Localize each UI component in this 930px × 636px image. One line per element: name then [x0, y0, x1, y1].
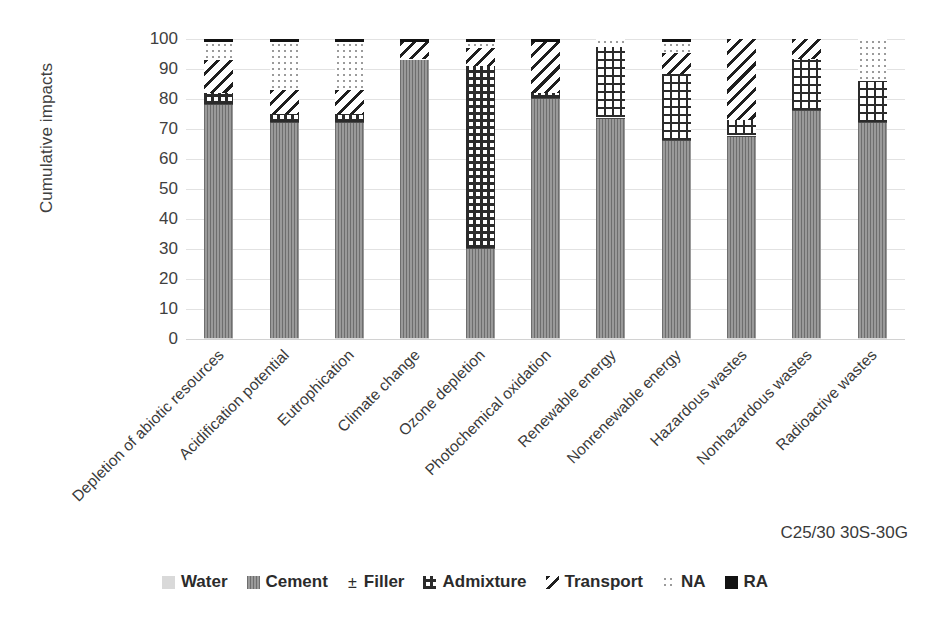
- segment-cement: [335, 123, 364, 338]
- segment-filler: [662, 140, 691, 142]
- segment-cement: [466, 249, 495, 338]
- legend-item-water[interactable]: Water: [162, 572, 228, 592]
- category-label-9: Nonhazardous wastes: [693, 346, 816, 469]
- segment-transport: [270, 90, 299, 114]
- segment-cement: [204, 105, 233, 338]
- segment-transport: [400, 42, 429, 59]
- segment-admixture: [466, 66, 495, 248]
- legend-label-transport: Transport: [565, 572, 643, 592]
- cement-swatch: [247, 576, 260, 589]
- bar-3[interactable]: [400, 39, 429, 339]
- segment-cement: [531, 99, 560, 338]
- segment-water: [792, 338, 821, 339]
- segment-transport: [335, 90, 364, 114]
- segment-water: [270, 338, 299, 339]
- segment-water: [531, 338, 560, 339]
- segment-admixture: [531, 93, 560, 98]
- segment-water: [335, 338, 364, 339]
- segment-water: [400, 338, 429, 339]
- y-tick-70: 70: [130, 119, 178, 139]
- gridline-0: [186, 339, 905, 340]
- segment-admixture: [596, 47, 625, 118]
- mix-annotation: C25/30 30S-30G: [780, 523, 908, 543]
- bar-6[interactable]: [596, 39, 625, 339]
- category-label-7: Nonrenewable energy: [564, 346, 685, 467]
- legend-item-na[interactable]: NA: [662, 572, 706, 592]
- segment-water: [466, 338, 495, 339]
- bar-0[interactable]: [204, 39, 233, 339]
- cropped-caption: [0, 626, 930, 636]
- segment-water: [596, 338, 625, 339]
- bar-7[interactable]: [662, 39, 691, 339]
- segment-na: [270, 42, 299, 90]
- y-tick-10: 10: [130, 299, 178, 319]
- legend-label-cement: Cement: [266, 572, 328, 592]
- segment-transport: [466, 48, 495, 66]
- legend-item-admixture[interactable]: Admixture: [423, 572, 526, 592]
- admixture-swatch: [423, 576, 436, 589]
- bar-10[interactable]: [858, 39, 887, 339]
- transport-swatch: [546, 576, 559, 589]
- segment-filler: [204, 104, 233, 106]
- y-tick-30: 30: [130, 239, 178, 259]
- bar-5[interactable]: [531, 39, 560, 339]
- na-swatch: [662, 576, 675, 589]
- segment-na: [335, 42, 364, 90]
- bar-9[interactable]: [792, 39, 821, 339]
- legend-item-cement[interactable]: Cement: [247, 572, 328, 592]
- segment-water: [858, 338, 887, 339]
- chart-legend: WaterCement±FillerAdmixtureTransportNARA: [0, 572, 930, 592]
- legend-label-na: NA: [681, 572, 706, 592]
- segment-admixture: [662, 74, 691, 140]
- y-axis-tick-labels: 0102030405060708090100: [130, 0, 178, 380]
- segment-admixture: [727, 120, 756, 135]
- segment-cement: [858, 123, 887, 338]
- bar-2[interactable]: [335, 39, 364, 339]
- segment-admixture: [400, 59, 429, 60]
- segment-na: [204, 42, 233, 60]
- segment-na: [858, 39, 887, 81]
- segment-transport: [662, 53, 691, 74]
- segment-filler: [531, 98, 560, 100]
- segment-ra: [531, 39, 560, 42]
- segment-ra: [270, 39, 299, 42]
- bar-1[interactable]: [270, 39, 299, 339]
- segment-cement: [662, 141, 691, 338]
- legend-label-water: Water: [181, 572, 228, 592]
- bar-4[interactable]: [466, 39, 495, 339]
- segment-admixture: [204, 93, 233, 104]
- segment-water: [662, 338, 691, 339]
- category-label-1: Acidification potential: [175, 346, 292, 463]
- legend-label-filler: Filler: [364, 572, 405, 592]
- segment-filler: [858, 122, 887, 124]
- segment-water: [727, 338, 756, 339]
- plot-area: [186, 39, 905, 339]
- segment-admixture: [858, 81, 887, 122]
- segment-ra: [466, 39, 495, 42]
- bar-8[interactable]: [727, 39, 756, 339]
- segment-filler: [335, 122, 364, 124]
- filler-swatch: ±: [347, 576, 358, 589]
- legend-label-ra: RA: [744, 572, 769, 592]
- segment-cement: [792, 111, 821, 338]
- segment-filler: [270, 122, 299, 124]
- legend-label-admixture: Admixture: [442, 572, 526, 592]
- segment-filler: [792, 110, 821, 112]
- legend-item-ra[interactable]: RA: [725, 572, 769, 592]
- segment-na: [466, 42, 495, 48]
- segment-ra: [335, 39, 364, 42]
- y-tick-0: 0: [130, 329, 178, 349]
- legend-item-transport[interactable]: Transport: [546, 572, 643, 592]
- segment-water: [204, 338, 233, 339]
- segment-cement: [596, 119, 625, 339]
- y-tick-50: 50: [130, 179, 178, 199]
- legend-item-filler[interactable]: ±Filler: [347, 572, 405, 592]
- y-tick-90: 90: [130, 59, 178, 79]
- segment-filler: [596, 117, 625, 119]
- segment-ra: [662, 39, 691, 42]
- chart-canvas: Cumulative impacts 010203040506070809010…: [0, 0, 930, 636]
- segment-admixture: [335, 114, 364, 122]
- segment-cement: [270, 123, 299, 338]
- segment-cement: [400, 60, 429, 338]
- water-swatch: [162, 576, 175, 589]
